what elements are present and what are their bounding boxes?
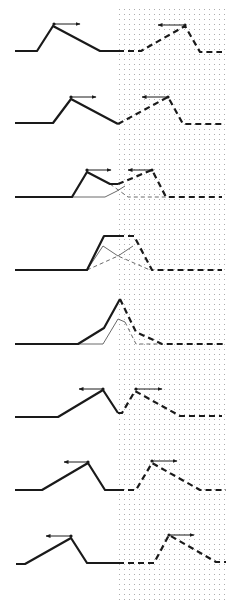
dashed-waveform	[120, 299, 225, 344]
peak-marker-icon	[183, 23, 186, 26]
solid-waveform	[15, 463, 118, 490]
peak-marker-icon	[150, 459, 153, 462]
panel-1	[15, 22, 222, 52]
panel-4	[15, 236, 222, 270]
panel-3	[15, 168, 222, 197]
peak-marker-icon	[134, 387, 137, 390]
peak-marker-icon	[86, 460, 89, 463]
panel-2	[15, 95, 222, 124]
thin-dashed-curve	[125, 322, 162, 344]
peak-marker-icon	[69, 95, 72, 98]
solid-waveform	[15, 236, 118, 270]
peak-marker-icon	[101, 387, 104, 390]
dotted-region	[119, 9, 225, 600]
solid-waveform	[15, 299, 120, 344]
peak-marker-icon	[52, 22, 55, 25]
dashed-waveform	[118, 170, 222, 197]
diagram-canvas	[0, 0, 243, 610]
waveform-panels	[15, 22, 226, 564]
dashed-waveform	[118, 236, 222, 270]
thin-dashed-curve	[87, 256, 150, 270]
panel-5	[15, 299, 225, 344]
solid-waveform	[15, 390, 118, 417]
peak-marker-icon	[85, 168, 88, 171]
solid-waveform	[15, 99, 118, 124]
peak-marker-icon	[166, 95, 169, 98]
thin-solid-curve	[15, 186, 125, 197]
dashed-waveform	[118, 391, 222, 416]
peak-marker-icon	[69, 534, 72, 537]
waveform-diagram	[0, 0, 243, 610]
dashed-waveform	[118, 26, 222, 52]
solid-waveform	[15, 172, 118, 197]
thin-dashed-curve	[110, 184, 166, 197]
panel-6	[15, 387, 222, 417]
peak-marker-icon	[150, 168, 153, 171]
solid-waveform	[16, 538, 118, 564]
dashed-waveform	[118, 97, 222, 124]
dashed-waveform	[118, 463, 226, 490]
peak-marker-icon	[167, 533, 170, 536]
solid-waveform	[15, 26, 118, 51]
